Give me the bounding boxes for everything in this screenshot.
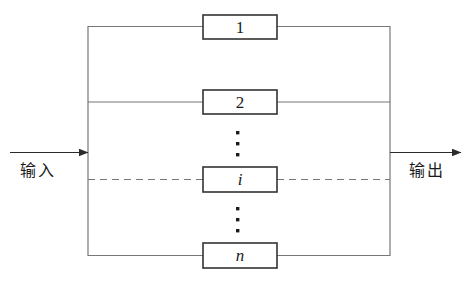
block-rect-i	[203, 167, 277, 192]
output-label: 输出	[409, 163, 445, 179]
ellipsis-upper-icon	[236, 131, 239, 156]
ellipsis-lower-icon	[236, 207, 239, 232]
input-label: 输入	[20, 163, 56, 179]
block-rect-n	[203, 243, 277, 268]
parallel-block-diagram: 1 2 i n 输入 输出	[0, 0, 469, 282]
diagram-canvas	[0, 0, 469, 282]
block-rect-2	[203, 90, 277, 114]
block-rect-1	[203, 15, 277, 39]
